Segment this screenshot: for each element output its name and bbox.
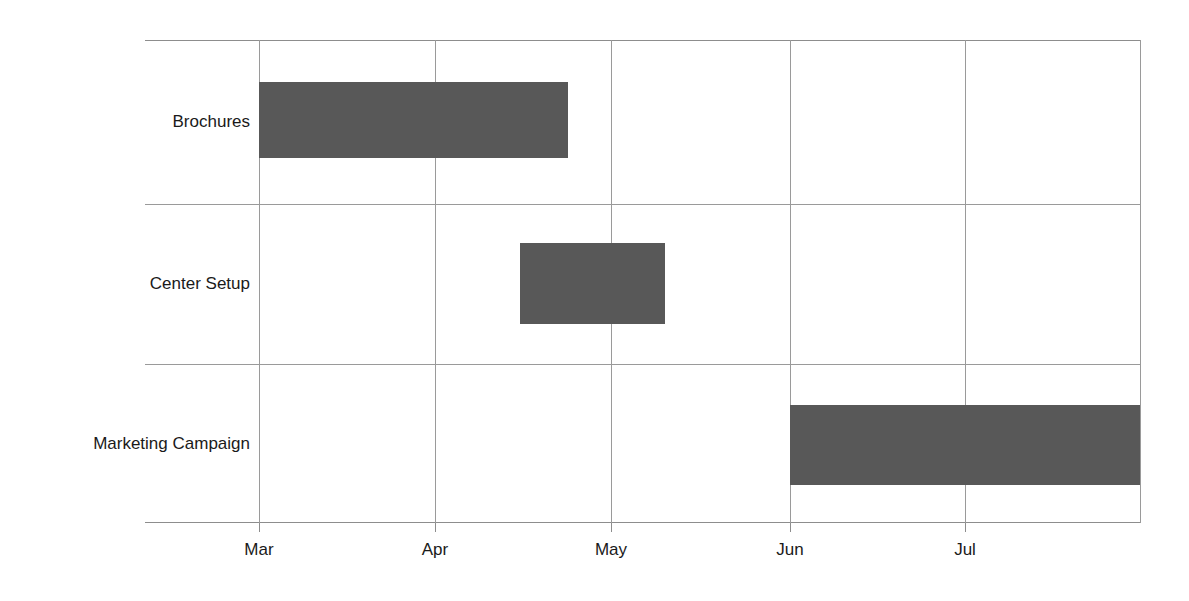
plot-top-border (145, 40, 1141, 41)
x-tick-label-apr: Apr (422, 539, 448, 561)
task-bar-marketing-campaign[interactable] (790, 405, 1140, 485)
row-separator-2 (145, 364, 1141, 365)
task-bar-center-setup[interactable] (520, 243, 665, 324)
x-tick-label-jul: Jul (954, 539, 976, 561)
tick-mark-apr (435, 523, 436, 532)
x-tick-label-may: May (595, 539, 627, 561)
plot-area (145, 40, 1141, 523)
x-axis-line (145, 522, 1141, 523)
tick-mark-may (611, 523, 612, 532)
tick-mark-mar (259, 523, 260, 532)
plot-right-border (1140, 40, 1141, 523)
x-tick-label-mar: Mar (244, 539, 273, 561)
tick-mark-jul (965, 523, 966, 532)
gantt-chart: Brochures Center Setup Marketing Campaig… (0, 0, 1189, 601)
task-bar-brochures[interactable] (259, 82, 568, 158)
row-separator-1 (145, 204, 1141, 205)
x-tick-label-jun: Jun (776, 539, 803, 561)
tick-mark-jun (790, 523, 791, 532)
